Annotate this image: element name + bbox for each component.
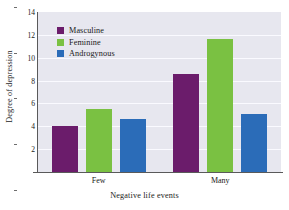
legend-swatch-icon bbox=[57, 27, 64, 34]
y-tick-mark bbox=[14, 53, 17, 54]
y-tick-label: 4 bbox=[17, 122, 35, 131]
bar bbox=[52, 126, 78, 172]
y-tick-label: 6 bbox=[17, 99, 35, 108]
gridline bbox=[38, 103, 281, 104]
y-tick-label: 12 bbox=[17, 30, 35, 39]
bar-chart-figure: Degree of depression 2468101214 FewMany … bbox=[0, 0, 289, 210]
legend-item: Androgynous bbox=[57, 48, 115, 59]
bar bbox=[120, 119, 146, 172]
y-axis-tick-labels: 2468101214 bbox=[17, 12, 35, 172]
x-axis-title: Negative life events bbox=[0, 191, 289, 200]
y-axis-title-text: Degree of depression bbox=[5, 50, 14, 123]
x-tick-label: Many bbox=[211, 176, 230, 185]
legend-label: Feminine bbox=[69, 38, 101, 47]
legend-item: Masculine bbox=[57, 25, 115, 36]
y-tick-label: 10 bbox=[17, 53, 35, 62]
x-tick-label: Few bbox=[92, 176, 106, 185]
y-tick-mark bbox=[14, 144, 17, 145]
bar bbox=[241, 114, 267, 172]
legend-swatch-icon bbox=[57, 39, 64, 46]
y-tick-label: 14 bbox=[17, 8, 35, 17]
y-axis-line bbox=[37, 12, 38, 173]
bar bbox=[86, 109, 112, 172]
chart-legend: MasculineFeminineAndrogynous bbox=[57, 25, 115, 60]
y-axis-title: Degree of depression bbox=[0, 0, 18, 172]
x-axis-title-text: Negative life events bbox=[110, 191, 178, 200]
gridline bbox=[38, 81, 281, 82]
legend-swatch-icon bbox=[57, 50, 64, 57]
bar bbox=[207, 39, 233, 172]
legend-item: Feminine bbox=[57, 37, 115, 48]
y-tick-label: 8 bbox=[17, 76, 35, 85]
legend-label: Masculine bbox=[69, 26, 104, 35]
x-axis-line bbox=[33, 172, 283, 173]
bar bbox=[173, 74, 199, 172]
y-tick-mark bbox=[14, 7, 17, 8]
legend-label: Androgynous bbox=[69, 49, 115, 58]
y-tick-mark bbox=[14, 98, 17, 99]
y-tick-label: 2 bbox=[17, 145, 35, 154]
